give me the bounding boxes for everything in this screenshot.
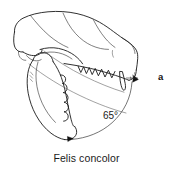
skull-drawing — [0, 0, 173, 174]
temporal-fossa-line — [63, 13, 109, 49]
cranium-outline — [14, 11, 137, 70]
angle-label: 65° — [103, 110, 118, 121]
masseteric-fossa — [36, 62, 55, 122]
arc-arrowhead-bottom — [67, 136, 73, 141]
mandible-alveolar-border — [53, 62, 75, 127]
panel-label: a — [158, 71, 163, 82]
gape-angle-arc — [72, 82, 132, 139]
infraorbital-foramen — [112, 51, 113, 58]
lower-tooth-row — [60, 75, 68, 121]
auditory-bulla — [23, 50, 42, 56]
sagittal-crest-line — [31, 16, 69, 48]
jaw-construction-line — [44, 51, 124, 92]
skull-figure: 65° a Felis concolor — [0, 0, 173, 174]
occipital-region — [14, 32, 23, 52]
coronoid-process — [33, 53, 53, 62]
upper-canine — [120, 72, 126, 90]
zygomatic-arch — [40, 48, 83, 64]
mental-foramen — [30, 72, 33, 81]
arc-arrowhead-top — [133, 76, 139, 83]
frontal-suture — [94, 20, 116, 47]
species-caption: Felis concolor — [0, 152, 173, 164]
